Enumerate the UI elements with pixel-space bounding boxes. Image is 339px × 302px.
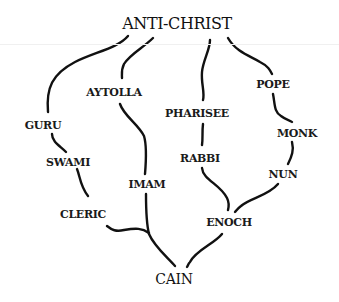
node-pharisee: PHARISEE bbox=[165, 107, 229, 120]
scan-line bbox=[0, 44, 339, 45]
node-anti-christ: ANTI-CHRIST bbox=[122, 14, 232, 33]
edge-cleric-cain bbox=[107, 226, 149, 233]
edge-enoch-cain bbox=[187, 234, 222, 267]
edge-aytolla-imam bbox=[120, 104, 146, 174]
node-monk: MONK bbox=[277, 127, 317, 140]
node-aytolla: AYTOLLA bbox=[86, 86, 142, 99]
edge-nun-enoch bbox=[235, 184, 278, 212]
node-guru: GURU bbox=[25, 119, 62, 132]
edge-rabbi-enoch bbox=[202, 168, 229, 210]
node-imam: IMAM bbox=[129, 178, 166, 191]
node-nun: NUN bbox=[269, 168, 298, 181]
edge-monk-nun bbox=[288, 142, 293, 164]
node-pope: POPE bbox=[256, 78, 289, 91]
edge-pope-monk bbox=[273, 94, 292, 122]
edge-antichrist-guru bbox=[48, 36, 128, 112]
edge-antichrist-pharisee bbox=[202, 40, 210, 100]
node-swami: SWAMI bbox=[46, 156, 90, 169]
node-enoch: ENOCH bbox=[206, 216, 252, 229]
edge-pharisee-rabbi bbox=[202, 124, 203, 145]
edge-guru-swami bbox=[52, 134, 66, 152]
edge-swami-cleric bbox=[77, 169, 88, 196]
edge-imam-cain bbox=[146, 194, 175, 266]
connector-lines bbox=[0, 0, 339, 302]
node-rabbi: RABBI bbox=[180, 152, 220, 165]
node-cain: CAIN bbox=[155, 271, 192, 287]
lineage-diagram: ANTI-CHRIST AYTOLLA GURU PHARISEE POPE M… bbox=[0, 0, 339, 302]
node-cleric: CLERIC bbox=[60, 208, 106, 221]
